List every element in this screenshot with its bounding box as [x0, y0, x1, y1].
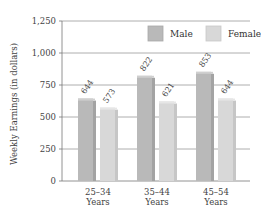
legend-item-male: Male [148, 26, 193, 41]
legend-label: Male [170, 29, 193, 39]
value-label: 853 [197, 51, 213, 69]
bar-female: 621 [159, 81, 177, 181]
legend: MaleFemale [145, 22, 261, 44]
x-axis: 25–34Years35–44Years45–54Years [85, 187, 229, 207]
bar-chart: 02505007501,0001,250 644573822621853644 … [0, 0, 261, 215]
y-tick-label: 0 [51, 176, 56, 186]
bar-male: 853 [196, 51, 214, 181]
bars: 644573822621853644 [78, 51, 236, 181]
bar-female: 573 [100, 87, 118, 181]
y-axis: 02505007501,0001,250 [32, 16, 62, 186]
x-tick-label: 35–44 [144, 187, 170, 197]
y-tick-label: 1,250 [32, 16, 56, 26]
bar-male: 822 [137, 55, 155, 181]
y-tick-label: 1,000 [32, 48, 56, 58]
value-label: 573 [101, 87, 117, 105]
value-label: 621 [160, 81, 176, 99]
y-tick-label: 500 [40, 112, 56, 122]
value-label: 644 [219, 78, 235, 96]
y-tick-label: 750 [40, 80, 56, 90]
y-tick-label: 250 [40, 144, 56, 154]
bar-male: 644 [78, 78, 96, 181]
legend-swatch [206, 26, 221, 41]
bar-female: 644 [218, 78, 236, 181]
value-label: 822 [138, 55, 154, 73]
legend-label: Female [228, 29, 261, 39]
x-tick-label-line2: Years [85, 197, 109, 207]
x-tick-label: 25–34 [85, 187, 111, 197]
legend-swatch [148, 26, 163, 41]
legend-item-female: Female [206, 26, 261, 41]
value-label: 644 [79, 78, 95, 96]
x-tick-label: 45–54 [203, 187, 229, 197]
x-tick-label-line2: Years [144, 197, 168, 207]
x-tick-label-line2: Years [203, 197, 227, 207]
y-axis-label: Weekly Earnings (in dollars) [9, 43, 19, 165]
